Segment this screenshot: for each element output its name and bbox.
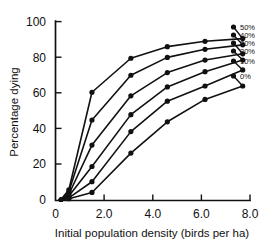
data-point [165, 55, 170, 60]
data-point [128, 93, 133, 98]
data-point [165, 70, 170, 75]
y-tick-label: 0 [39, 193, 46, 207]
data-point [89, 179, 94, 184]
data-point [89, 190, 94, 195]
y-tick-label: 60 [33, 86, 47, 100]
legend-marker [231, 24, 236, 29]
series-50pct [59, 36, 246, 202]
y-tick-label: 40 [33, 122, 47, 136]
data-series-group [59, 36, 246, 202]
data-point [202, 39, 207, 44]
legend-marker [231, 32, 236, 37]
series-30pct [59, 51, 246, 202]
data-point [165, 84, 170, 89]
data-point [165, 44, 170, 49]
data-point [202, 57, 207, 62]
legend-marker [231, 73, 236, 78]
data-point [128, 129, 133, 134]
y-tick-label: 80 [33, 51, 47, 65]
data-point [128, 73, 133, 78]
series-0pct [59, 83, 246, 202]
x-tick-label: 0 [52, 207, 59, 221]
y-axis-title: Percentage dying [8, 67, 20, 157]
data-point [128, 112, 133, 117]
x-tick-label: 2.0 [96, 207, 113, 221]
series-20pct [59, 57, 246, 202]
series-line [61, 39, 243, 200]
data-point [89, 90, 94, 95]
data-point [89, 164, 94, 169]
legend-label: 10% [240, 57, 255, 66]
legend-marker [231, 40, 236, 45]
x-tick-label: 6.0 [193, 207, 210, 221]
x-tick-label: 4.0 [144, 207, 161, 221]
legend-label: 0% [240, 72, 251, 81]
x-tick-label: 8.0 [242, 207, 259, 221]
data-point [59, 197, 64, 202]
x-tick-marks [104, 195, 250, 201]
y-tick-label: 20 [33, 157, 47, 171]
y-tick-marks [56, 22, 62, 164]
data-point [66, 196, 71, 201]
data-point [165, 119, 170, 124]
x-tick-labels: 0 2.0 4.0 6.0 8.0 [52, 207, 259, 221]
data-point [202, 47, 207, 52]
line-chart-canvas: Percentage dying 100 80 60 40 20 0 [0, 0, 265, 247]
series-line [61, 86, 243, 200]
data-point [89, 117, 94, 122]
y-tick-label: 100 [26, 15, 46, 29]
series-line [61, 54, 243, 200]
chart-figure: Percentage dying 100 80 60 40 20 0 [0, 0, 265, 247]
x-axis-title: Initial population density (birds per ha… [55, 227, 250, 239]
legend-marker [231, 58, 236, 63]
data-point [202, 69, 207, 74]
legend-marker [231, 48, 236, 53]
series-40pct [59, 42, 246, 202]
data-point [202, 83, 207, 88]
data-point [89, 142, 94, 147]
y-tick-labels: 100 80 60 40 20 0 [26, 15, 46, 207]
data-point [165, 99, 170, 104]
data-point [128, 150, 133, 155]
legend-label: 20% [240, 47, 255, 56]
chart-legend: 50%40%30%20%10%0% [231, 23, 255, 87]
data-point [202, 97, 207, 102]
data-point [128, 56, 133, 61]
